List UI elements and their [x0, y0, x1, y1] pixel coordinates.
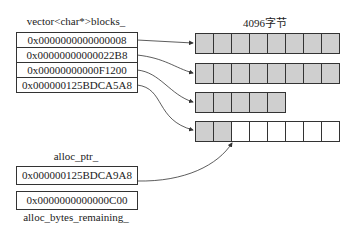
free-block-cell: [231, 121, 250, 142]
used-block-cell: [303, 63, 322, 84]
used-block-cell: [267, 33, 286, 54]
free-block-cell: [321, 121, 340, 142]
memory-block-row: [195, 92, 285, 113]
used-block-cell: [321, 63, 340, 84]
used-block-cell: [303, 33, 322, 54]
memory-block-row: [195, 63, 339, 84]
vector-entry: 0x0000000000000008: [17, 33, 137, 48]
used-block-cell: [195, 121, 214, 142]
used-block-cell: [321, 33, 340, 54]
vector-entry: 0x00000000000F1200: [17, 63, 137, 78]
alloc-bytes-remaining-label: alloc_bytes_remaining_: [16, 211, 136, 223]
used-block-cell: [267, 92, 286, 113]
used-block-cell: [249, 92, 268, 113]
used-block-cell: [213, 121, 232, 142]
vector-entry: 0x00000000000022B8: [17, 48, 137, 63]
used-block-cell: [231, 33, 250, 54]
free-block-cell: [267, 121, 286, 142]
used-block-cell: [231, 63, 250, 84]
free-block-cell: [303, 121, 322, 142]
used-block-cell: [213, 63, 232, 84]
blocks-vector: 0x0000000000000008 0x00000000000022B8 0x…: [16, 32, 138, 93]
used-block-cell: [285, 33, 304, 54]
free-block-cell: [285, 121, 304, 142]
used-block-cell: [195, 33, 214, 54]
used-block-cell: [213, 92, 232, 113]
used-block-cell: [267, 63, 286, 84]
used-block-cell: [213, 33, 232, 54]
memory-block-row: [195, 121, 339, 142]
memory-block-row: [195, 33, 339, 54]
alloc-bytes-remaining-value: 0x0000000000000C00: [16, 191, 138, 210]
used-block-cell: [231, 92, 250, 113]
alloc-ptr-value: 0x000000125BDCA9A8: [16, 166, 138, 185]
used-block-cell: [249, 33, 268, 54]
free-block-cell: [249, 121, 268, 142]
alloc-ptr-label: alloc_ptr_: [16, 150, 136, 162]
vector-entry: 0x000000125BDCA5A8: [17, 78, 137, 92]
used-block-cell: [249, 63, 268, 84]
used-block-cell: [285, 63, 304, 84]
block-size-label: 4096字节: [230, 14, 300, 30]
used-block-cell: [195, 92, 214, 113]
vector-label: vector<char*>blocks_: [16, 15, 136, 27]
used-block-cell: [195, 63, 214, 84]
